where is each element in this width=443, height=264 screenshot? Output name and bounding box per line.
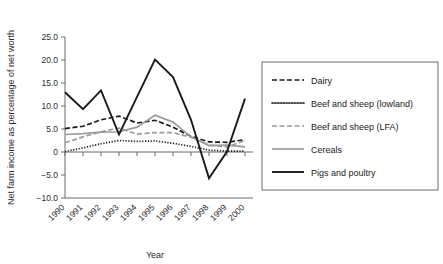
chart-series-group (65, 60, 245, 179)
chart-legend: DairyBeef and sheep (lowland)Beef and sh… (262, 62, 438, 190)
x-tick-label: 1990 (46, 202, 67, 223)
legend-label: Dairy (311, 76, 333, 86)
y-tick-label: 20.0 (41, 55, 58, 65)
y-tick-label: 25.0 (41, 32, 58, 42)
line-chart: −10.0−5.005.010.015.020.025.019901991199… (0, 0, 443, 264)
x-tick-label: 1998 (190, 202, 211, 223)
x-tick-label: 1992 (82, 202, 103, 223)
x-tick-label: 1991 (64, 202, 85, 223)
y-tick-label: 15.0 (41, 78, 58, 88)
x-tick-label: 1999 (208, 202, 229, 223)
x-tick-label: 1993 (100, 202, 121, 223)
x-tick-label: 1994 (118, 202, 139, 223)
x-tick-label: 1995 (136, 202, 157, 223)
legend-label: Beef and sheep (lowland) (311, 99, 413, 109)
series-line-pigs-and-poultry (65, 60, 245, 179)
x-tick-label: 1996 (154, 202, 175, 223)
y-tick-label: 5.0 (46, 124, 58, 134)
legend-label: Pigs and poultry (311, 168, 376, 178)
legend-label: Cereals (311, 145, 343, 155)
x-tick-label: 1997 (172, 202, 193, 223)
y-axis-title: Net farm income as percentage of net wor… (6, 30, 16, 205)
y-tick-label: −5.0 (41, 170, 58, 180)
series-line-dairy (65, 116, 245, 142)
series-line-beef-and-sheep-lfa (65, 128, 245, 147)
x-tick-label: 2000 (226, 202, 247, 223)
y-tick-label: 10.0 (41, 101, 58, 111)
y-tick-label: 0 (53, 147, 58, 157)
legend-label: Beef and sheep (LFA) (311, 122, 399, 132)
x-axis-title: Year (146, 250, 164, 260)
y-tick-label: −10.0 (36, 193, 58, 203)
figure-container: −10.0−5.005.010.015.020.025.019901991199… (0, 0, 443, 264)
